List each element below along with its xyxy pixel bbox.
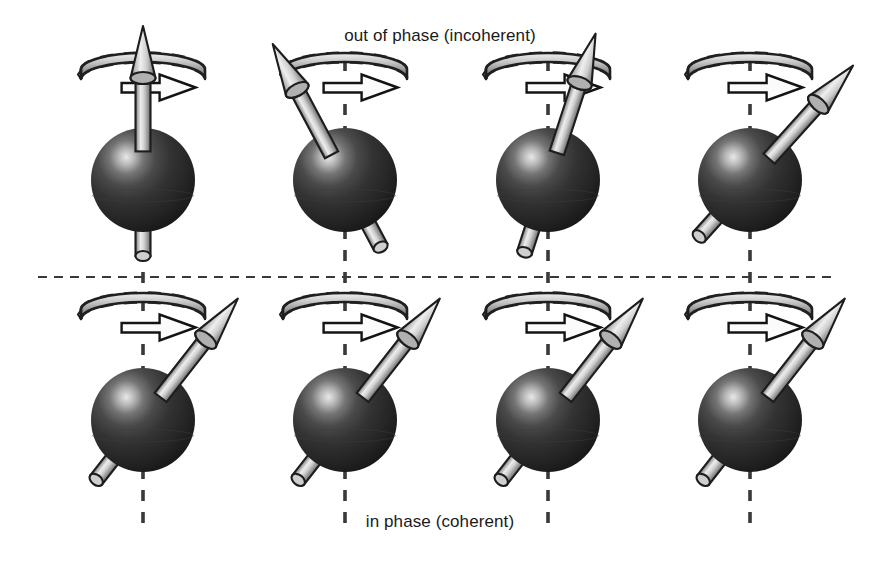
spin-sphere	[496, 128, 600, 232]
precession-direction-arrow	[527, 315, 601, 341]
precession-loop	[280, 293, 407, 341]
precession-loop	[78, 293, 205, 341]
precession-ribbon-fold	[685, 310, 688, 319]
arrow-tail-cap	[136, 251, 151, 261]
spin-out-of-phase-3	[483, 30, 610, 292]
figure-canvas: out of phase (incoherent) in phase (cohe…	[0, 0, 880, 565]
precession-direction-arrow	[122, 315, 196, 341]
spin-in-phase-3	[483, 291, 653, 532]
spin-out-of-phase-1	[78, 26, 205, 292]
spin-out-of-phase-2	[262, 38, 407, 292]
precession-direction-arrow	[729, 75, 803, 101]
precession-direction-arrow	[729, 315, 803, 341]
precession-ribbon-fold	[78, 70, 81, 79]
arrow-head-base	[131, 72, 156, 84]
precession-ribbon-fold	[483, 70, 486, 79]
precession-ribbon-fold	[483, 310, 486, 319]
caption-in-phase: in phase (coherent)	[0, 512, 880, 532]
precession-loop	[685, 53, 812, 101]
spin-row-out-of-phase	[78, 26, 862, 292]
spin-in-phase-1	[78, 291, 248, 532]
precession-loop	[483, 293, 610, 341]
precession-direction-arrow	[324, 315, 398, 341]
precession-ribbon-fold	[280, 310, 283, 319]
spin-in-phase-2	[280, 291, 450, 532]
spin-out-of-phase-4	[685, 53, 862, 292]
spin-row-in-phase	[78, 291, 855, 532]
precession-ribbon-fold	[685, 70, 688, 79]
precession-ribbon-fold	[78, 310, 81, 319]
precession-direction-arrow	[324, 75, 398, 101]
precession-loop	[685, 293, 812, 341]
spin-sphere	[293, 128, 397, 232]
spin-in-phase-4	[685, 291, 855, 532]
spin-diagram	[0, 0, 880, 565]
